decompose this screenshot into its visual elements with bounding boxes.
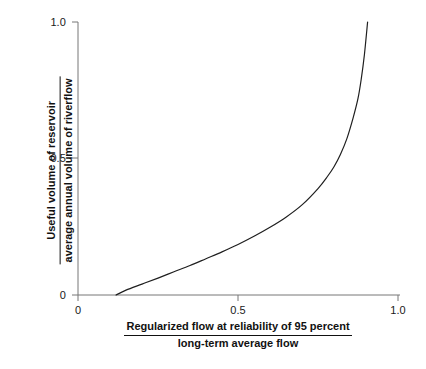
y-axis-title: Useful volume of reservoir average annua… bbox=[45, 30, 76, 310]
y-tick-label-1.0: 1.0 bbox=[34, 16, 66, 28]
x-tick-label-1.0: 1.0 bbox=[378, 304, 418, 316]
x-axis-title: Regularized flow at reliability of 95 pe… bbox=[78, 320, 398, 351]
chart-figure: 1.0 0.5 0 0 0.5 1.0 Regularized flow at … bbox=[0, 0, 426, 369]
x-axis-title-denominator: long-term average flow bbox=[124, 336, 351, 351]
x-tick-label-0.5: 0.5 bbox=[218, 304, 258, 316]
y-axis-title-numerator: Useful volume of reservoir bbox=[45, 76, 61, 264]
data-curve bbox=[116, 22, 368, 295]
x-axis-title-numerator: Regularized flow at reliability of 95 pe… bbox=[124, 320, 351, 336]
plot-area: 1.0 0.5 0 0 0.5 1.0 Regularized flow at … bbox=[0, 0, 426, 369]
y-axis-title-denominator: average annual volume of riverflow bbox=[60, 76, 75, 264]
